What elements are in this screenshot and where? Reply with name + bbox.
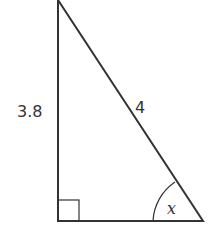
vertical-side-label: 3.8 — [17, 102, 42, 121]
triangle — [58, 0, 203, 221]
hypotenuse-label: 4 — [135, 98, 145, 117]
angle-label: x — [167, 199, 176, 218]
triangle-diagram: 3.8 4 x — [0, 0, 213, 228]
right-angle-marker — [58, 200, 79, 221]
